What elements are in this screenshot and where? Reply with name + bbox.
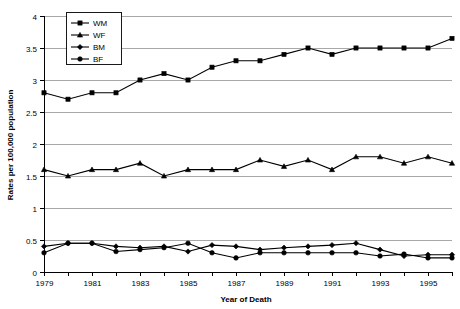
square-marker	[450, 36, 454, 40]
square-marker	[426, 46, 430, 50]
legend-label: WF	[93, 31, 106, 40]
circle-marker	[402, 252, 407, 257]
chart-legend: WMWFBMBF	[67, 13, 122, 65]
x-tick-label: 1989	[276, 279, 294, 288]
square-marker	[306, 46, 310, 50]
square-marker	[234, 59, 238, 63]
x-tick-label: 1987	[228, 279, 246, 288]
y-tick-label: 3.5	[26, 45, 38, 54]
x-axis-tick-labels: 197919811983198519871989199119931995	[36, 279, 438, 288]
square-marker	[282, 52, 286, 56]
y-tick-label: 1	[33, 205, 38, 214]
square-marker	[330, 52, 334, 56]
y-axis-title: Rates per 100,000 population	[6, 90, 15, 201]
x-tick-label: 1985	[180, 279, 198, 288]
y-tick-label: 0	[33, 269, 38, 278]
x-axis-title: Year of Death	[220, 295, 271, 304]
circle-marker	[234, 256, 239, 261]
circle-marker	[282, 250, 287, 255]
square-marker	[354, 46, 358, 50]
x-tick-label: 1993	[372, 279, 390, 288]
circle-marker	[42, 250, 47, 255]
square-marker	[66, 97, 70, 101]
y-tick-label: 1.5	[26, 173, 38, 182]
circle-marker	[258, 250, 263, 255]
circle-marker	[378, 254, 383, 259]
y-tick-label: 2	[33, 141, 38, 150]
chart-canvas: 00.511.522.533.54 1979198119831985198719…	[0, 0, 460, 309]
square-marker	[114, 91, 118, 95]
x-tick-label: 1991	[324, 279, 342, 288]
square-marker	[402, 46, 406, 50]
square-marker	[42, 91, 46, 95]
x-tick-label: 1979	[36, 279, 54, 288]
y-tick-label: 3	[33, 77, 38, 86]
square-marker	[258, 59, 262, 63]
square-marker	[378, 46, 382, 50]
square-marker	[90, 91, 94, 95]
square-marker	[162, 72, 166, 76]
y-tick-label: 4	[33, 13, 38, 22]
y-tick-label: 2.5	[26, 109, 38, 118]
square-marker	[138, 78, 142, 82]
x-tick-label: 1983	[132, 279, 150, 288]
circle-marker	[354, 250, 359, 255]
x-tick-label: 1981	[84, 279, 102, 288]
square-marker	[78, 21, 82, 25]
circle-marker	[210, 250, 215, 255]
legend-label: BM	[93, 43, 105, 52]
circle-marker	[306, 250, 311, 255]
circle-marker	[426, 256, 431, 261]
circle-marker	[450, 256, 455, 261]
circle-marker	[90, 241, 95, 246]
y-tick-label: 0.5	[26, 237, 38, 246]
x-tick-label: 1995	[420, 279, 438, 288]
line-chart: 00.511.522.533.54 1979198119831985198719…	[0, 0, 460, 309]
circle-marker	[66, 241, 71, 246]
circle-marker	[330, 250, 335, 255]
legend-label: WM	[93, 19, 108, 28]
circle-marker	[186, 241, 191, 246]
circle-marker	[78, 57, 83, 62]
circle-marker	[114, 249, 119, 254]
legend-label: BF	[93, 55, 103, 64]
square-marker	[210, 65, 214, 69]
circle-marker	[162, 245, 167, 250]
square-marker	[186, 78, 190, 82]
circle-marker	[138, 247, 143, 252]
